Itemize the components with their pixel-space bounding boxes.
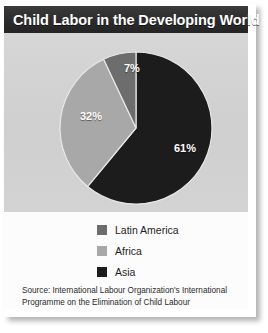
legend-item-africa[interactable]: Africa [97,243,247,259]
source-line-2: Programme on the Elimination of Child La… [22,297,244,309]
source-note: Source: International Labour Organizatio… [22,285,244,309]
legend-label-asia: Asia [115,267,135,278]
legend-label-latin-america: Latin America [115,225,179,236]
pie-label-africa: 32% [80,110,102,122]
pie-label-asia: 61% [174,142,196,154]
chart-legend: Latin America Africa Asia [97,222,247,285]
legend-swatch-asia [97,267,107,277]
legend-label-africa: Africa [115,246,142,257]
source-line-1: Source: International Labour Organizatio… [22,285,244,297]
legend-item-asia[interactable]: Asia [97,264,247,280]
legend-item-latin-america[interactable]: Latin America [97,222,247,238]
chart-figure: Child Labor in the Developing World 61% … [0,0,268,333]
pie-label-latin-america: 7% [124,62,140,74]
pie-slices [60,52,212,204]
legend-swatch-latin-america [97,225,107,235]
legend-swatch-africa [97,246,107,256]
